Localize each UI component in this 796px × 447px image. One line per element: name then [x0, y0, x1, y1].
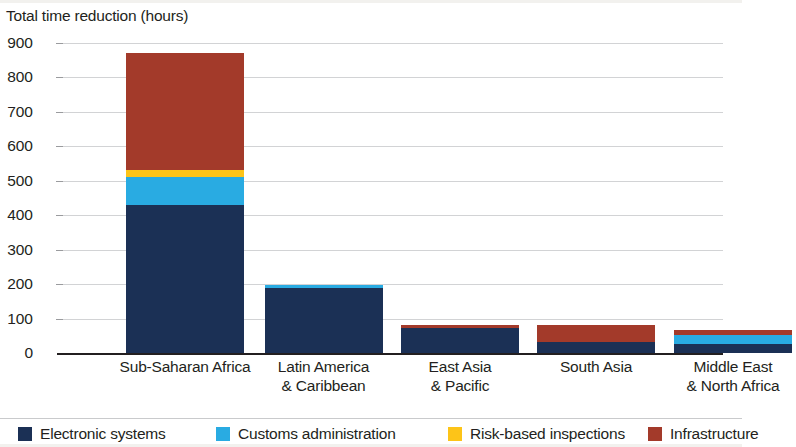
- y-tick-label: 700: [0, 103, 33, 121]
- bar-group[interactable]: [265, 43, 383, 353]
- x-axis-label-line1: East Asia: [429, 358, 492, 375]
- x-axis-label-line1: Middle East: [694, 358, 773, 375]
- y-tick-mark: [56, 250, 63, 251]
- bar-group[interactable]: [537, 43, 655, 353]
- bar-segment[interactable]: [674, 344, 792, 353]
- bar-segment[interactable]: [126, 205, 244, 353]
- bar-group[interactable]: [126, 43, 244, 353]
- bar-segment[interactable]: [537, 342, 655, 353]
- y-tick-mark: [56, 77, 63, 78]
- bar-stack[interactable]: [537, 325, 655, 353]
- plot-area: 9008007006005004003002001000: [63, 43, 723, 353]
- x-axis-label-line1: Latin America: [278, 358, 369, 375]
- x-axis-labels: Sub-Saharan AfricaLatin America& Caribbe…: [63, 357, 723, 405]
- bar-segment[interactable]: [537, 325, 655, 341]
- page-edge-tint-top: [0, 0, 742, 3]
- legend-swatch-icon: [648, 427, 662, 441]
- bar-stack[interactable]: [265, 285, 383, 353]
- y-tick-mark: [56, 146, 63, 147]
- y-tick-label: 900: [0, 34, 33, 52]
- bar-stack[interactable]: [401, 325, 519, 353]
- axis-baseline: [57, 353, 723, 355]
- y-tick-label: 300: [0, 241, 33, 259]
- bar-group[interactable]: [674, 43, 792, 353]
- chart-axis-title: Total time reduction (hours): [6, 7, 188, 25]
- bar-segment[interactable]: [674, 335, 792, 344]
- y-tick-mark: [56, 319, 63, 320]
- y-tick-label: 600: [0, 137, 33, 155]
- y-tick-mark: [56, 43, 63, 44]
- legend-item[interactable]: Risk-based inspections: [448, 425, 625, 443]
- y-tick-label: 800: [0, 68, 33, 86]
- chart-legend: Electronic systemsCustoms administration…: [0, 418, 742, 447]
- y-tick-mark: [56, 112, 63, 113]
- page-edge-tint-bottom: [0, 444, 742, 447]
- y-tick-mark: [56, 215, 63, 216]
- x-axis-label-line2: & Pacific: [361, 376, 559, 395]
- legend-swatch-icon: [18, 427, 32, 441]
- legend-swatch-icon: [216, 427, 230, 441]
- legend-item[interactable]: Customs administration: [216, 425, 396, 443]
- y-tick-mark: [56, 181, 63, 182]
- legend-label: Customs administration: [238, 425, 396, 443]
- bar-stack[interactable]: [674, 330, 792, 353]
- x-axis-label-line1: South Asia: [560, 358, 632, 375]
- bar-segment[interactable]: [126, 53, 244, 170]
- legend-label: Risk-based inspections: [470, 425, 625, 443]
- y-tick-label: 200: [0, 275, 33, 293]
- legend-item[interactable]: Infrastructure: [648, 425, 759, 443]
- bar-segment[interactable]: [265, 288, 383, 353]
- legend-label: Infrastructure: [670, 425, 759, 443]
- x-axis-label: Middle East& North Africa: [634, 357, 796, 395]
- legend-item[interactable]: Electronic systems: [18, 425, 166, 443]
- y-tick-label: 0: [0, 344, 33, 362]
- y-tick-mark: [56, 284, 63, 285]
- bar-stack[interactable]: [126, 53, 244, 353]
- y-tick-label: 500: [0, 172, 33, 190]
- legend-label: Electronic systems: [40, 425, 166, 443]
- bar-segment[interactable]: [401, 328, 519, 353]
- y-tick-label: 100: [0, 310, 33, 328]
- bar-segment[interactable]: [126, 177, 244, 205]
- bars-container: [63, 43, 723, 353]
- bar-group[interactable]: [401, 43, 519, 353]
- y-tick-label: 400: [0, 206, 33, 224]
- legend-swatch-icon: [448, 427, 462, 441]
- bar-segment[interactable]: [126, 170, 244, 177]
- x-axis-label-line2: & North Africa: [634, 376, 796, 395]
